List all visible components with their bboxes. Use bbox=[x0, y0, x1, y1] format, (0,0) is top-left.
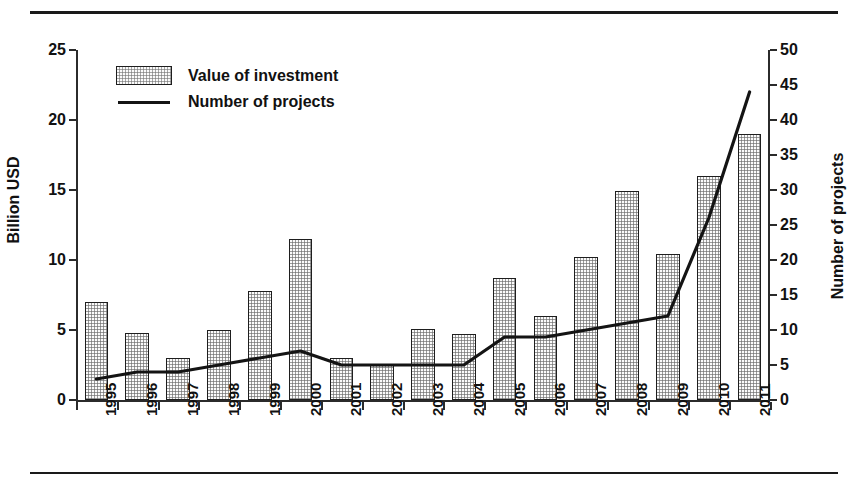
x-tick-label-2000: 2000 bbox=[308, 383, 323, 416]
x-tick-label-2007: 2007 bbox=[593, 383, 608, 416]
x-tick-0 bbox=[76, 402, 78, 410]
legend-bar-swatch-icon bbox=[116, 66, 172, 85]
y-tick-right-15 bbox=[770, 294, 777, 296]
y-tick-left-0 bbox=[69, 399, 76, 401]
y-tick-right-40 bbox=[770, 119, 777, 121]
legend-label-value-of-investment: Value of investment bbox=[188, 66, 338, 85]
y-tick-label-right-30: 30 bbox=[780, 182, 798, 198]
x-tick-label-2008: 2008 bbox=[634, 383, 649, 416]
y-tick-label-right-10: 10 bbox=[780, 322, 798, 338]
y-tick-label-left-25: 25 bbox=[48, 42, 66, 58]
x-tick-label-2002: 2002 bbox=[389, 383, 404, 416]
chart-figure: Billion USD Number of projects 051015202… bbox=[0, 0, 862, 491]
x-tick-label-2003: 2003 bbox=[430, 383, 445, 416]
y-tick-right-30 bbox=[770, 189, 777, 191]
y-tick-left-20 bbox=[69, 119, 76, 121]
clipped-title bbox=[30, 0, 630, 6]
y-tick-label-right-35: 35 bbox=[780, 147, 798, 163]
y-tick-right-50 bbox=[770, 49, 777, 51]
x-tick-label-1997: 1997 bbox=[185, 383, 200, 416]
y-tick-right-45 bbox=[770, 84, 777, 86]
y-tick-right-20 bbox=[770, 259, 777, 261]
legend-item-number-of-projects: Number of projects bbox=[116, 88, 338, 114]
y-tick-label-right-50: 50 bbox=[780, 42, 798, 58]
x-tick-label-2009: 2009 bbox=[675, 383, 690, 416]
y-tick-label-left-10: 10 bbox=[48, 252, 66, 268]
x-tick-label-2006: 2006 bbox=[552, 383, 567, 416]
y-tick-label-right-5: 5 bbox=[780, 357, 789, 373]
legend-label-number-of-projects: Number of projects bbox=[188, 92, 335, 111]
y-tick-left-15 bbox=[69, 189, 76, 191]
top-rule bbox=[30, 11, 838, 14]
x-tick-label-2001: 2001 bbox=[348, 383, 363, 416]
y-tick-label-right-0: 0 bbox=[780, 392, 789, 408]
y-tick-label-left-5: 5 bbox=[57, 322, 66, 338]
y-tick-label-right-25: 25 bbox=[780, 217, 798, 233]
x-tick-label-1995: 1995 bbox=[103, 383, 118, 416]
x-tick-label-1999: 1999 bbox=[267, 383, 282, 416]
y-axis-title-left: Billion USD bbox=[5, 156, 23, 243]
y-tick-label-left-0: 0 bbox=[57, 392, 66, 408]
x-tick-label-1998: 1998 bbox=[226, 383, 241, 416]
y-tick-label-right-15: 15 bbox=[780, 287, 798, 303]
y-tick-label-right-45: 45 bbox=[780, 77, 798, 93]
y-tick-left-10 bbox=[69, 259, 76, 261]
x-tick-label-2004: 2004 bbox=[471, 383, 486, 416]
legend-item-value-of-investment: Value of investment bbox=[116, 62, 338, 88]
y-tick-right-25 bbox=[770, 224, 777, 226]
y-axis-title-right: Number of projects bbox=[829, 153, 847, 300]
bottom-rule bbox=[30, 472, 838, 474]
chart-legend: Value of investment Number of projects bbox=[116, 62, 338, 114]
y-tick-right-10 bbox=[770, 329, 777, 331]
x-tick-label-2011: 2011 bbox=[757, 383, 772, 416]
y-tick-left-5 bbox=[69, 329, 76, 331]
y-tick-label-right-40: 40 bbox=[780, 112, 798, 128]
x-tick-label-2005: 2005 bbox=[512, 383, 527, 416]
y-tick-label-left-15: 15 bbox=[48, 182, 66, 198]
y-tick-left-25 bbox=[69, 49, 76, 51]
number-of-projects-line bbox=[96, 92, 749, 379]
y-tick-right-5 bbox=[770, 364, 777, 366]
y-tick-right-35 bbox=[770, 154, 777, 156]
x-tick-label-1996: 1996 bbox=[144, 383, 159, 416]
y-tick-label-left-20: 20 bbox=[48, 112, 66, 128]
y-tick-label-right-20: 20 bbox=[780, 252, 798, 268]
legend-line-swatch-icon bbox=[116, 92, 172, 111]
x-tick-label-2010: 2010 bbox=[716, 383, 731, 416]
